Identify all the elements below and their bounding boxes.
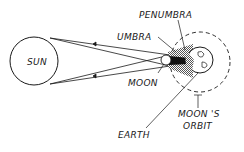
moon-label: MOON	[128, 78, 158, 88]
umbra-label: UMBRA	[117, 32, 151, 42]
sun-label: SUN	[27, 57, 47, 67]
earth-label: EARTH	[118, 130, 150, 140]
eclipse-diagram: SUN PENUMBRA UMBRA MOON EARTH MOON 'S OR…	[0, 0, 244, 152]
moons-orbit-label-line1: MOON 'S	[178, 109, 220, 119]
moon	[161, 55, 171, 65]
penumbra-label: PENUMBRA	[139, 10, 192, 20]
moons-orbit-label-line2: ORBIT	[183, 121, 213, 131]
